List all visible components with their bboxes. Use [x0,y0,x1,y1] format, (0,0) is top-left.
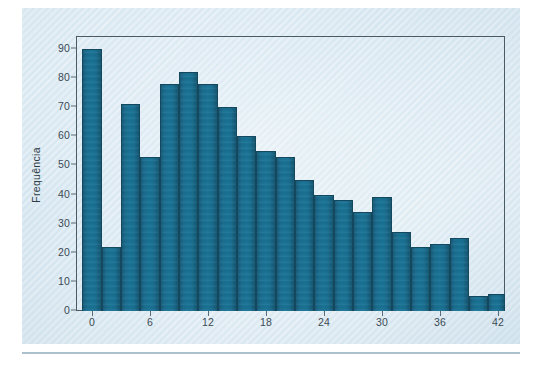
histogram-bar [469,296,488,311]
histogram-chart: Frequência 0102030405060708090 061218243… [0,0,542,366]
x-tick-mark [498,311,499,316]
y-tick-label: 40 [44,188,70,200]
y-tick-label: 80 [44,71,70,83]
histogram-bar [160,84,179,311]
y-axis-title: Frequência [30,147,42,203]
histogram-bar [102,247,121,311]
histogram-bar [198,84,217,311]
figure-card: Frequência 0102030405060708090 061218243… [0,0,542,366]
histogram-bar [353,212,372,311]
y-tick-label: 20 [44,246,70,258]
histogram-bar [218,107,237,311]
histogram-bar [140,157,159,311]
histogram-bar [256,151,275,311]
histogram-bar [334,200,353,311]
y-tick-label: 50 [44,158,70,170]
x-tick-label: 0 [77,316,107,328]
x-tick-mark [92,311,93,316]
histogram-bar [411,247,430,311]
histogram-bar [450,238,469,311]
x-tick-label: 42 [483,316,513,328]
histogram-bar [314,195,333,311]
x-tick-mark [266,311,267,316]
y-tick-label: 30 [44,217,70,229]
histogram-bar [488,294,505,311]
histogram-bar [372,197,391,311]
caption-rule-line [22,352,520,354]
x-tick-label: 30 [367,316,397,328]
x-tick-label: 36 [425,316,455,328]
x-tick-label: 12 [193,316,223,328]
histogram-bar [237,136,256,311]
bars-layer [76,36,505,311]
y-tick-label: 90 [44,42,70,54]
x-tick-mark [208,311,209,316]
y-tick-label: 10 [44,275,70,287]
x-tick-mark [324,311,325,316]
x-tick-mark [382,311,383,316]
histogram-bar [295,180,314,311]
histogram-bar [179,72,198,311]
x-tick-mark [440,311,441,316]
histogram-bar [392,232,411,311]
x-tick-label: 6 [135,316,165,328]
histogram-bar [82,49,101,311]
x-tick-label: 18 [251,316,281,328]
x-tick-mark [150,311,151,316]
histogram-bar [276,157,295,311]
y-tick-label: 0 [44,304,70,316]
histogram-bar [430,244,449,311]
histogram-bar [121,104,140,311]
y-tick-label: 60 [44,129,70,141]
x-tick-label: 24 [309,316,339,328]
y-tick-label: 70 [44,100,70,112]
